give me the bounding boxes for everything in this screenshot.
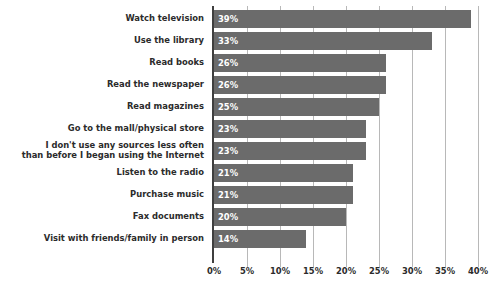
bar-value-label: 21% bbox=[218, 168, 238, 178]
category-label-row: Purchase music bbox=[0, 184, 208, 206]
bar[interactable]: 21% bbox=[214, 164, 353, 182]
bar-value-label: 25% bbox=[218, 102, 238, 112]
category-label-column: Watch televisionUse the libraryRead book… bbox=[0, 8, 208, 250]
bar[interactable]: 14% bbox=[214, 230, 306, 248]
x-axis-tick-label: 10% bbox=[270, 266, 290, 276]
category-label: I don't use any sources less often than … bbox=[22, 137, 204, 165]
category-label: Use the library bbox=[134, 30, 204, 52]
category-label-row: Visit with friends/family in person bbox=[0, 228, 208, 250]
category-label: Read magazines bbox=[127, 96, 204, 118]
bar[interactable]: 23% bbox=[214, 120, 366, 138]
category-label-row: Read books bbox=[0, 52, 208, 74]
bar-value-label: 26% bbox=[218, 58, 238, 68]
y-axis-line bbox=[212, 6, 214, 263]
category-label-row: Watch television bbox=[0, 8, 208, 30]
category-label: Visit with friends/family in person bbox=[44, 228, 204, 250]
x-axis-tick-label: 30% bbox=[402, 266, 422, 276]
x-axis-tick-label: 35% bbox=[435, 266, 455, 276]
category-label-row: Listen to the radio bbox=[0, 162, 208, 184]
bar[interactable]: 39% bbox=[214, 10, 471, 28]
gridline bbox=[478, 6, 479, 267]
category-label-row: I don't use any sources less often than … bbox=[0, 140, 208, 162]
category-label: Read books bbox=[149, 52, 204, 74]
category-label: Fax documents bbox=[133, 206, 204, 228]
bar[interactable]: 20% bbox=[214, 208, 346, 226]
bar-value-label: 14% bbox=[218, 234, 238, 244]
bar-value-label: 33% bbox=[218, 36, 238, 46]
x-axis-tick-label: 15% bbox=[303, 266, 323, 276]
bar-chart: Watch televisionUse the libraryRead book… bbox=[0, 0, 501, 296]
bar[interactable]: 21% bbox=[214, 186, 353, 204]
bar[interactable]: 26% bbox=[214, 54, 386, 72]
bar[interactable]: 25% bbox=[214, 98, 379, 116]
bar[interactable]: 33% bbox=[214, 32, 432, 50]
category-label-row: Read the newspaper bbox=[0, 74, 208, 96]
category-label: Read the newspaper bbox=[107, 74, 204, 96]
bar-value-label: 26% bbox=[218, 80, 238, 90]
bar-value-label: 20% bbox=[218, 212, 238, 222]
category-label-row: Use the library bbox=[0, 30, 208, 52]
x-axis-tick-label: 40% bbox=[468, 266, 488, 276]
x-axis-tick-label: 25% bbox=[369, 266, 389, 276]
bar-value-label: 23% bbox=[218, 124, 238, 134]
bar-value-label: 23% bbox=[218, 146, 238, 156]
bar[interactable]: 23% bbox=[214, 142, 366, 160]
bar-row: 39% bbox=[214, 8, 478, 30]
x-axis-tick-label: 20% bbox=[336, 266, 356, 276]
bar[interactable]: 26% bbox=[214, 76, 386, 94]
category-label: Purchase music bbox=[130, 184, 204, 206]
bar-value-label: 39% bbox=[218, 14, 238, 24]
category-label-row: Fax documents bbox=[0, 206, 208, 228]
x-axis-tick-label: 5% bbox=[240, 266, 254, 276]
category-label-row: Read magazines bbox=[0, 96, 208, 118]
bar-value-label: 21% bbox=[218, 190, 238, 200]
category-label: Watch television bbox=[125, 8, 204, 30]
x-axis-tick-label: 0% bbox=[207, 266, 221, 276]
category-label: Listen to the radio bbox=[117, 162, 204, 184]
x-axis: 0%5%10%15%20%25%30%35%40% bbox=[214, 264, 478, 284]
gridline bbox=[445, 6, 446, 267]
